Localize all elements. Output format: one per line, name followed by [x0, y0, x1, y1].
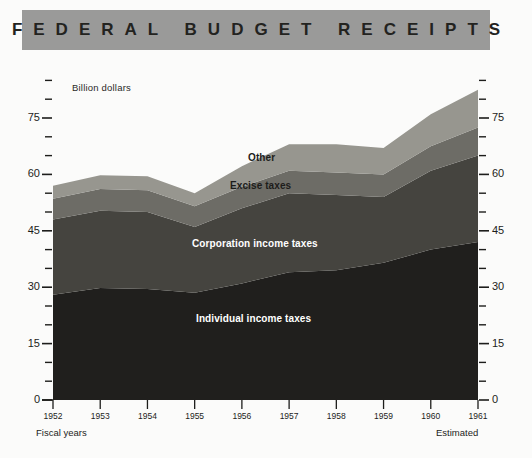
x-axis-label-1959: 1959 [364, 411, 404, 421]
y-axis-label-right-15: 15 [492, 337, 518, 349]
y-axis-label-right-0: 0 [492, 393, 518, 405]
plot-area [0, 0, 532, 458]
y-axis-label-left-0: 0 [14, 393, 40, 405]
estimated-note: Estimated [436, 427, 478, 438]
x-axis-label-1955: 1955 [175, 411, 215, 421]
y-axis-label-left-30: 30 [14, 280, 40, 292]
x-axis-label-1956: 1956 [222, 411, 262, 421]
series-label-other: Other [248, 152, 275, 163]
y-axis-label-right-30: 30 [492, 280, 518, 292]
y-axis-label-right-45: 45 [492, 224, 518, 236]
x-axis-label-1952: 1952 [33, 411, 73, 421]
y-axis-label-left-45: 45 [14, 224, 40, 236]
x-axis-label-1954: 1954 [127, 411, 167, 421]
series-label-individual: Individual income taxes [196, 313, 311, 324]
x-axis-label-1960: 1960 [411, 411, 451, 421]
y-axis-label-left-15: 15 [14, 337, 40, 349]
series-label-excise: Excise taxes [230, 180, 291, 191]
x-axis-label-1957: 1957 [269, 411, 309, 421]
x-axis-label-1953: 1953 [80, 411, 120, 421]
y-axis-label-right-75: 75 [492, 111, 518, 123]
series-label-corporation: Corporation income taxes [192, 238, 318, 249]
x-axis-label-1961: 1961 [458, 411, 498, 421]
y-axis-label-left-60: 60 [14, 167, 40, 179]
x-axis-label-1958: 1958 [316, 411, 356, 421]
y-axis-label-left-75: 75 [14, 111, 40, 123]
chart-figure: FEDERAL BUDGET RECEIPTS Billion dollars … [0, 0, 532, 458]
y-axis-label-right-60: 60 [492, 167, 518, 179]
fiscal-years-note: Fiscal years [36, 427, 87, 438]
